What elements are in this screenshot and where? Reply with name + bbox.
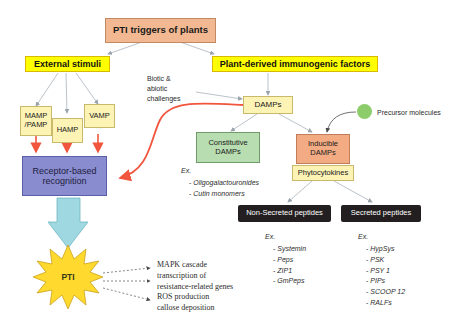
- precursor-molecule-dot: [357, 104, 372, 119]
- list-item: GmPeps: [273, 276, 306, 287]
- list-item: SCOOP 12: [366, 287, 405, 298]
- challenges-line1: Biotic &: [147, 74, 202, 84]
- list-item: Peps: [273, 255, 306, 266]
- box-hamp: HAMP: [52, 118, 83, 143]
- list-item: Oligogalactouronides: [189, 178, 259, 189]
- constitutive-examples-header: Ex.: [181, 166, 259, 177]
- outcome-line5: callose deposition: [157, 303, 277, 314]
- list-item: Cutin monomers: [189, 189, 259, 200]
- constitutive-label-line2: DAMPs: [215, 148, 240, 157]
- outcome-line1: MAPK cascade: [157, 260, 277, 271]
- title-box: PTI triggers of plants: [105, 18, 216, 43]
- list-item: HypSys: [366, 244, 405, 255]
- label-precursor-molecules: Precursor molecules: [377, 108, 441, 118]
- text-pti-outcomes: MAPK cascade transcription of resistance…: [157, 260, 277, 314]
- receptor-label-line2: recognition: [42, 176, 86, 186]
- secreted-examples-list: HypSys PSK PSY 1 PIPs SCOOP 12 RALFs: [358, 244, 405, 309]
- text-biotic-abiotic-challenges: Biotic & abiotic challenges: [147, 74, 202, 104]
- pti-star: PTI: [33, 245, 103, 309]
- list-item: ZIP1: [273, 266, 306, 277]
- box-phytocytokines: Phytocytokines: [292, 165, 354, 181]
- banner-non-secreted-peptides: Non-Secreted peptides: [238, 205, 331, 222]
- box-inducible-damps: Inducible DAMPs: [296, 134, 350, 164]
- challenges-line3: challenges: [147, 94, 202, 104]
- mamp-label-line2: /PAMP: [25, 121, 48, 130]
- secreted-peptide-examples: Ex. HypSys PSK PSY 1 PIPs SCOOP 12 RALFs: [358, 232, 405, 309]
- box-vamp: VAMP: [84, 104, 115, 128]
- box-mamp-pamp: MAMP /PAMP: [20, 106, 52, 136]
- header-plant-derived-immunogenic-factors: Plant-derived immunogenic factors: [212, 56, 378, 72]
- secreted-examples-header: Ex.: [358, 232, 405, 243]
- list-item: PIPs: [366, 276, 405, 287]
- list-item: RALFs: [366, 298, 405, 309]
- banner-secreted-peptides: Secreted peptides: [341, 205, 421, 222]
- constitutive-damps-examples: Ex. Oligogalactouronides Cutin monomers: [181, 166, 259, 200]
- pti-label: PTI: [33, 272, 103, 282]
- list-item: Systemin: [273, 244, 306, 255]
- outcome-line3: resistance-related genes: [157, 282, 277, 293]
- list-item: PSY 1: [366, 266, 405, 277]
- header-external-stimuli: External stimuli: [25, 56, 110, 72]
- outcome-line4: ROS production: [157, 292, 277, 303]
- constitutive-examples-list: Oligogalactouronides Cutin monomers: [181, 178, 259, 200]
- box-receptor-based-recognition: Receptor-based recognition: [22, 156, 107, 196]
- challenges-line2: abiotic: [147, 84, 202, 94]
- outcome-line2: transcription of: [157, 271, 277, 282]
- non-secreted-examples-header: Ex.: [265, 232, 306, 243]
- receptor-label-line1: Receptor-based: [32, 166, 96, 176]
- inducible-label-line2: DAMPs: [310, 149, 335, 158]
- list-item: PSK: [366, 255, 405, 266]
- box-constitutive-damps: Constitutive DAMPs: [196, 132, 260, 163]
- box-damps: DAMPs: [243, 96, 293, 114]
